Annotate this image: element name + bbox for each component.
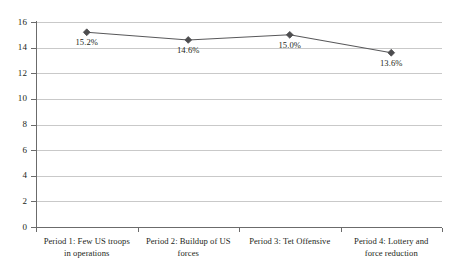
- data-point-label: 15.0%: [260, 41, 320, 50]
- data-point-marker: [286, 31, 293, 38]
- data-point-marker: [83, 29, 90, 36]
- data-point-marker: [388, 49, 395, 56]
- data-point-label: 15.2%: [57, 38, 117, 47]
- series-markers: [83, 29, 394, 56]
- data-point-marker: [185, 37, 192, 44]
- data-point-label: 13.6%: [361, 59, 421, 68]
- data-point-label: 14.6%: [158, 46, 218, 55]
- series-polyline: [87, 32, 392, 53]
- line-chart: 1614121086420 Period 1: Few US troopsin …: [0, 0, 457, 271]
